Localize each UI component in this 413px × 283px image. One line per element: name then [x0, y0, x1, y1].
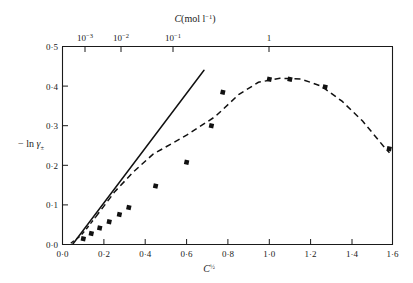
top-axis-title-unit: (mol l: [181, 13, 205, 25]
y-tick-label-4: 0·4: [46, 82, 58, 92]
x-tick-label-5: 1·0: [263, 249, 275, 259]
chart-figure: C(mol l−1) 10−3 10−2 10−1 1: [0, 0, 413, 283]
experimental-dashed-curve: [96, 78, 390, 217]
x-axis-ticks: [63, 239, 393, 245]
top-axis-tick-label-2: 10−1: [165, 32, 181, 44]
data-point: [81, 236, 86, 241]
y-axis-title-prefix: − ln: [18, 138, 36, 149]
top-axis-tick-label-0: 10−3: [77, 32, 93, 44]
data-point: [97, 225, 102, 230]
data-point: [386, 146, 391, 151]
x-axis-title-exponent: ½: [210, 263, 215, 270]
data-point: [209, 123, 214, 128]
activity-coefficient-plot: C(mol l−1) 10−3 10−2 10−1 1: [0, 0, 413, 283]
top-axis-tick-label-3: 1: [267, 33, 272, 43]
data-point: [184, 160, 189, 165]
y-tick-label-3: 0·3: [46, 121, 58, 131]
top-axis-ticks: [85, 47, 269, 53]
top-axis-title-exponent: −1: [205, 13, 212, 20]
plot-data-layer: [71, 70, 392, 244]
data-point: [89, 231, 94, 236]
y-axis-title: − ln γ±: [18, 138, 44, 151]
x-tick-label-3: 0·6: [181, 249, 193, 259]
x-tick-label-7: 1·4: [346, 249, 358, 259]
data-point: [153, 183, 158, 188]
y-axis-tick-labels: 0·0 0·1 0·2 0·3 0·4 0·5: [46, 42, 58, 250]
y-tick-label-5: 0·5: [46, 42, 58, 52]
data-point: [267, 76, 272, 81]
data-point-markers: [81, 76, 392, 241]
x-axis-tick-labels: 0·0 0·2 0·4 0·6 0·8 1·0 1·2 1·4 1·6: [57, 249, 399, 259]
x-tick-label-0: 0·0: [57, 249, 69, 259]
data-point: [106, 219, 111, 224]
x-tick-label-1: 0·2: [98, 249, 110, 259]
top-axis-title: C(mol l−1): [174, 13, 215, 26]
x-tick-label-4: 0·8: [222, 249, 234, 259]
data-point: [220, 90, 225, 95]
limiting-law-line: [73, 70, 204, 244]
y-tick-label-2: 0·2: [46, 161, 58, 171]
data-point: [117, 212, 122, 217]
data-point: [322, 84, 327, 89]
top-axis-tick-label-1: 10−2: [113, 32, 129, 44]
x-tick-label-2: 0·4: [139, 249, 151, 259]
y-axis-ticks: [63, 47, 69, 245]
y-axis-title-subscript: ±: [40, 144, 44, 151]
top-axis-title-paren: ): [212, 13, 215, 25]
top-axis-tick-labels: 10−3 10−2 10−1 1: [77, 32, 271, 44]
y-tick-label-1: 0·1: [46, 200, 58, 210]
data-point: [287, 76, 292, 81]
x-axis-title: C½: [203, 263, 215, 275]
x-tick-label-8: 1·6: [387, 249, 399, 259]
x-tick-label-6: 1·2: [305, 249, 317, 259]
data-point: [126, 205, 131, 210]
